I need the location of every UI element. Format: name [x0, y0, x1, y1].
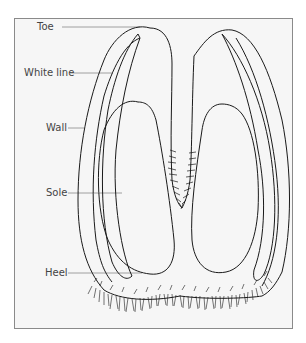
- left-white-line: [102, 34, 140, 278]
- right-sole: [192, 104, 259, 273]
- hoof-diagram: [0, 0, 306, 343]
- label-heel: Heel: [45, 267, 68, 279]
- label-white-line: White line: [24, 67, 74, 79]
- label-wall: Wall: [46, 122, 67, 134]
- right-frog-lobe: [182, 30, 232, 208]
- heel-bulbs: [104, 290, 262, 299]
- label-toe: Toe: [37, 21, 54, 33]
- left-sole: [98, 101, 174, 274]
- left-frog-lobe: [150, 28, 182, 208]
- heel-hair: [88, 271, 272, 312]
- label-sole: Sole: [46, 187, 67, 199]
